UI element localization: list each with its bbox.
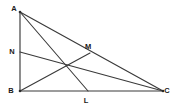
geometry-figure: A B C L M N xyxy=(0,0,174,108)
cevian-AL xyxy=(20,12,88,91)
point-label-M: M xyxy=(85,42,91,51)
vertex-label-C: C xyxy=(164,86,170,95)
vertex-dot-B xyxy=(19,90,22,93)
vertex-dot-A xyxy=(19,11,22,14)
cevian-CN xyxy=(20,52,163,91)
point-label-L: L xyxy=(84,96,89,105)
geometry-canvas: A B C L M N xyxy=(0,0,174,108)
vertex-label-A: A xyxy=(11,4,17,13)
cevian-BM xyxy=(20,53,90,91)
vertex-label-B: B xyxy=(8,86,14,95)
point-label-N: N xyxy=(9,47,14,56)
